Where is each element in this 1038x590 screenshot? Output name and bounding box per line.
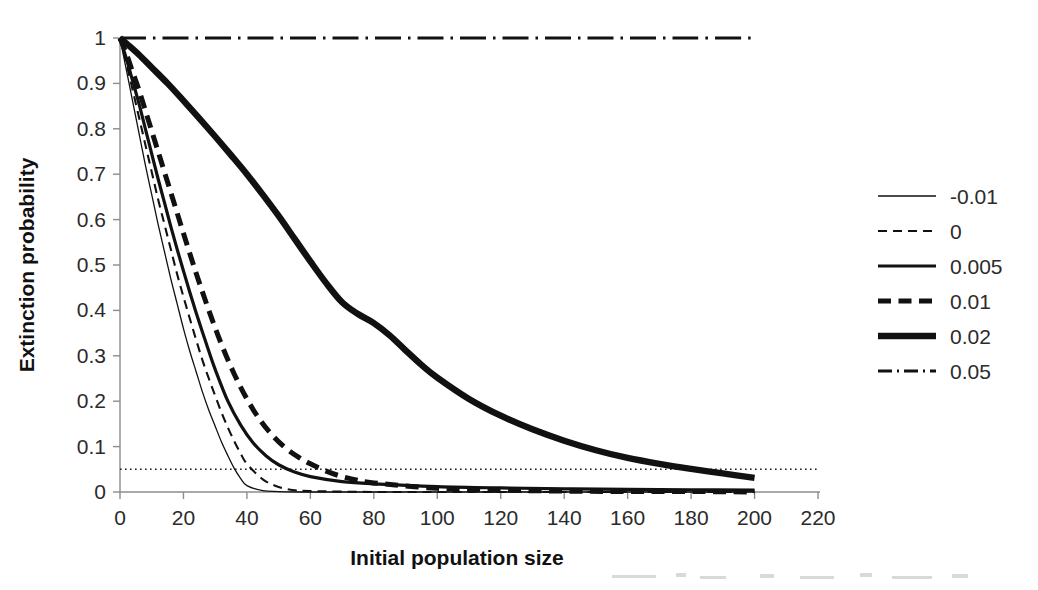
scan-artifact: [800, 576, 834, 579]
y-tick-label: 0: [94, 480, 106, 503]
x-axis-title: Initial population size: [350, 546, 564, 569]
scan-artifact: [700, 576, 726, 579]
y-tick-label: 0.1: [77, 435, 106, 458]
extinction-probability-chart: 02040608010012014016018020022000.10.20.3…: [0, 0, 1038, 590]
series-line-0-005: [120, 38, 755, 490]
x-tick-label: 180: [674, 506, 709, 529]
legend-label-0: 0: [950, 220, 962, 243]
series-line-0-01: [120, 38, 755, 492]
legend-label-0-01: 0.01: [950, 290, 991, 313]
scan-artifact: [952, 574, 968, 578]
figure-container: 02040608010012014016018020022000.10.20.3…: [0, 0, 1038, 590]
legend-label-0-005: 0.005: [950, 255, 1003, 278]
x-tick-label: 80: [362, 506, 385, 529]
scan-artifact: [676, 573, 686, 577]
series-line-0: [120, 38, 755, 492]
x-tick-label: 20: [172, 506, 195, 529]
y-tick-label: 0.7: [77, 162, 106, 185]
legend-label--0-01: -0.01: [950, 185, 998, 208]
plot-area: 02040608010012014016018020022000.10.20.3…: [15, 26, 1003, 579]
x-tick-label: 0: [114, 506, 126, 529]
y-axis-title: Extinction probability: [15, 157, 38, 372]
y-tick-label: 0.3: [77, 344, 106, 367]
x-tick-label: 200: [737, 506, 772, 529]
series-line-neg-0-01: [120, 38, 755, 492]
legend-label-0-02: 0.02: [950, 325, 991, 348]
x-tick-label: 60: [299, 506, 322, 529]
y-tick-label: 1: [94, 26, 106, 49]
y-tick-label: 0.4: [77, 298, 107, 321]
y-tick-label: 0.9: [77, 71, 106, 94]
series-line-0-02: [120, 38, 755, 478]
scan-artifact: [892, 576, 932, 579]
scan-artifact: [760, 574, 774, 578]
x-tick-label: 40: [235, 506, 258, 529]
x-tick-label: 220: [800, 506, 835, 529]
y-tick-label: 0.5: [77, 253, 106, 276]
x-tick-label: 120: [483, 506, 518, 529]
x-tick-label: 160: [610, 506, 645, 529]
legend-label-0-05: 0.05: [950, 360, 991, 383]
y-tick-label: 0.8: [77, 117, 106, 140]
x-tick-label: 100: [420, 506, 455, 529]
scan-artifact: [612, 575, 656, 578]
scan-artifact: [860, 573, 872, 577]
x-tick-label: 140: [547, 506, 582, 529]
y-tick-label: 0.2: [77, 389, 106, 412]
y-tick-label: 0.6: [77, 208, 106, 231]
